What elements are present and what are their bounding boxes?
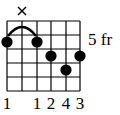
finger-number: 3 xyxy=(73,95,87,112)
string-lines xyxy=(7,21,80,91)
finger-dot xyxy=(45,50,56,61)
finger-dot xyxy=(74,50,85,61)
finger-dot xyxy=(31,36,42,47)
muted-string-x-icon xyxy=(18,7,26,15)
finger-dot xyxy=(1,36,12,47)
fret-position-label: 5 fr xyxy=(88,31,112,48)
finger-dot xyxy=(60,64,71,75)
chord-diagram: 5 fr 1 1 2 4 3 xyxy=(0,0,120,115)
finger-number: 1 xyxy=(0,95,14,112)
finger-number: 1 xyxy=(30,95,44,112)
finger-number: 2 xyxy=(44,95,58,112)
fret-lines xyxy=(7,21,80,91)
finger-number: 4 xyxy=(59,95,73,112)
